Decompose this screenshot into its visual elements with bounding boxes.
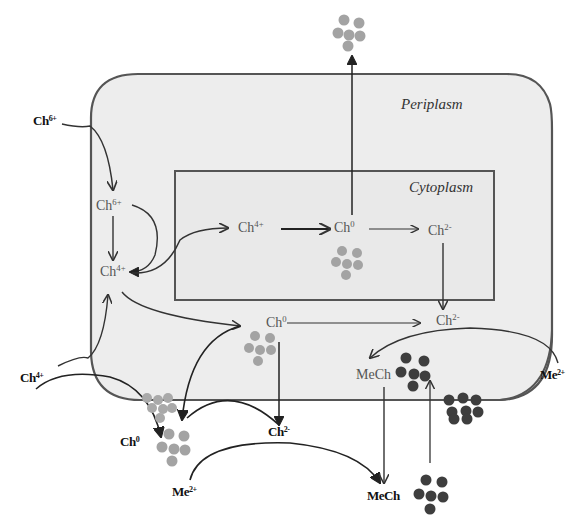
species-charge: 2- [284, 425, 290, 434]
arrow-me2-to-mech-outside [190, 443, 380, 483]
species-me2-outside-right: Me2+ [540, 368, 565, 381]
particles-mech-membrane-bottom [444, 393, 484, 425]
periplasm-label: Periplasm [401, 97, 463, 112]
particles-exported-top [333, 15, 366, 52]
species-base: MeCh [367, 488, 400, 503]
species-charge: 2- [444, 222, 451, 232]
species-base: Ch [20, 370, 36, 385]
species-me2-outside-bottom: Me2+ [172, 485, 197, 498]
species-ch2-outside: Ch2- [268, 425, 289, 438]
species-mech-periplasm: MeCh [356, 368, 391, 382]
species-ch4-outside: Ch4+ [20, 371, 43, 384]
species-base: Ch [436, 313, 452, 328]
species-base: Ch [96, 198, 112, 213]
species-base: Ch [268, 424, 284, 439]
arrow-ch0-to-ch2-outside-arc [187, 401, 279, 425]
species-base: Ch [100, 264, 116, 279]
particles-ch0-outside [157, 429, 191, 467]
species-base: Me [172, 484, 189, 499]
species-base: Me [540, 367, 557, 382]
species-charge: 6+ [112, 197, 121, 207]
species-base: Ch [266, 315, 282, 330]
species-ch4-cytoplasm: Ch4+ [238, 221, 264, 235]
species-charge: 4+ [254, 219, 263, 229]
species-mech-outside: MeCh [367, 489, 400, 502]
species-ch0-cytoplasm: Ch0 [334, 221, 355, 235]
particles-mech-outside [414, 475, 449, 515]
species-charge: 0 [282, 314, 286, 324]
species-base: Ch [428, 223, 444, 238]
species-charge: 4+ [36, 371, 44, 380]
species-ch6-outside: Ch6+ [33, 114, 56, 127]
species-base: MeCh [356, 367, 391, 382]
species-charge: 2- [452, 312, 459, 322]
species-charge: 2+ [189, 485, 197, 494]
species-ch0-outside: Ch0 [120, 435, 139, 448]
species-ch6-periplasm: Ch6+ [96, 199, 122, 213]
species-base: Ch [334, 220, 350, 235]
species-base: Ch [33, 113, 49, 128]
species-base: Ch [120, 434, 136, 449]
species-charge: 6+ [49, 114, 57, 123]
cytoplasm-label: Cytoplasm [409, 180, 473, 195]
diagram-canvas [0, 0, 583, 523]
species-ch0-periplasm: Ch0 [266, 316, 287, 330]
species-charge: 4+ [116, 263, 125, 273]
species-ch2-cytoplasm: Ch2- [428, 224, 452, 238]
species-charge: 0 [350, 219, 354, 229]
particles-membrane-bottom-light [142, 393, 177, 423]
species-ch2-periplasm: Ch2- [436, 314, 460, 328]
species-charge: 2+ [557, 368, 565, 377]
species-base: Ch [238, 220, 254, 235]
species-ch4-periplasm: Ch4+ [100, 265, 126, 279]
species-charge: 0 [136, 435, 140, 444]
